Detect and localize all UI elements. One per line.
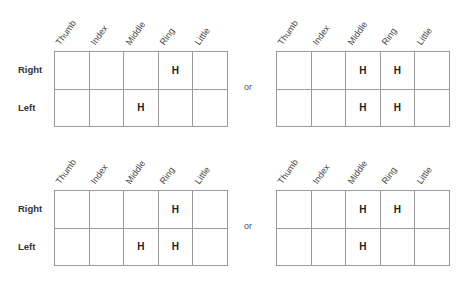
- cell-left-index: [89, 228, 123, 265]
- cell-right-index: [311, 52, 345, 89]
- column-header-index: Index: [311, 23, 332, 47]
- cell-left-middle: H: [124, 89, 158, 126]
- column-header-thumb: Thumb: [54, 157, 78, 186]
- cell-left-little: [193, 228, 227, 265]
- column-header-middle: Middle: [345, 159, 368, 186]
- cell-left-index: [311, 89, 345, 126]
- row-label-right: Right: [18, 64, 42, 75]
- column-header-ring: Ring: [380, 165, 399, 186]
- cell-right-thumb: [277, 52, 311, 89]
- cell-left-middle: H: [346, 89, 380, 126]
- row-label-right: Right: [18, 203, 42, 214]
- cell-left-ring: [380, 228, 414, 265]
- column-header-middle: Middle: [123, 159, 146, 186]
- cell-right-middle: H: [346, 191, 380, 228]
- column-header-index: Index: [89, 23, 110, 47]
- finger-grid: HHH: [276, 190, 450, 266]
- cell-right-ring: H: [158, 52, 192, 89]
- finger-grid: HHH: [54, 190, 228, 266]
- column-header-ring: Ring: [158, 165, 177, 186]
- column-header-little: Little: [193, 165, 212, 186]
- column-header-middle: Middle: [123, 20, 146, 47]
- column-header-little: Little: [193, 26, 212, 47]
- cell-left-ring: H: [158, 228, 192, 265]
- column-header-thumb: Thumb: [54, 18, 78, 47]
- column-header-thumb: Thumb: [276, 157, 300, 186]
- row-label-left: Left: [18, 241, 35, 252]
- cell-left-little: [193, 89, 227, 126]
- row-label-left: Left: [18, 102, 35, 113]
- cell-left-middle: H: [346, 228, 380, 265]
- cell-right-thumb: [55, 191, 89, 228]
- cell-left-index: [89, 89, 123, 126]
- column-header-index: Index: [311, 162, 332, 186]
- cell-left-thumb: [277, 228, 311, 265]
- column-header-little: Little: [415, 165, 434, 186]
- column-header-little: Little: [415, 26, 434, 47]
- cell-left-thumb: [55, 89, 89, 126]
- column-header-ring: Ring: [158, 26, 177, 47]
- cell-right-little: [415, 52, 449, 89]
- finger-grid: HH: [54, 51, 228, 127]
- cell-right-index: [89, 191, 123, 228]
- cell-left-ring: H: [380, 89, 414, 126]
- cell-left-little: [415, 228, 449, 265]
- cell-right-thumb: [277, 191, 311, 228]
- cell-right-index: [311, 191, 345, 228]
- cell-left-middle: H: [124, 228, 158, 265]
- cell-right-ring: H: [158, 191, 192, 228]
- cell-left-index: [311, 228, 345, 265]
- column-header-index: Index: [89, 162, 110, 186]
- cell-right-middle: [124, 52, 158, 89]
- cell-right-ring: H: [380, 52, 414, 89]
- column-header-ring: Ring: [380, 26, 399, 47]
- cell-right-little: [193, 191, 227, 228]
- cell-right-little: [415, 191, 449, 228]
- cell-right-index: [89, 52, 123, 89]
- cell-right-little: [193, 52, 227, 89]
- column-header-thumb: Thumb: [276, 18, 300, 47]
- cell-right-middle: [124, 191, 158, 228]
- column-header-middle: Middle: [345, 20, 368, 47]
- or-separator: or: [244, 82, 252, 92]
- cell-left-ring: [158, 89, 192, 126]
- cell-left-thumb: [55, 228, 89, 265]
- cell-left-little: [415, 89, 449, 126]
- cell-left-thumb: [277, 89, 311, 126]
- cell-right-middle: H: [346, 52, 380, 89]
- or-separator: or: [244, 221, 252, 231]
- cell-right-thumb: [55, 52, 89, 89]
- cell-right-ring: H: [380, 191, 414, 228]
- finger-grid: HHHH: [276, 51, 450, 127]
